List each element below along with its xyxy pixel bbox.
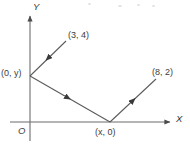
origin-label: O — [18, 126, 25, 136]
coordinate-diagram: Y X O (3, 4) (0, y) (x, 0) (8, 2) — [0, 0, 190, 146]
point-label-8-2: (8, 2) — [152, 68, 173, 77]
point-label-0-y: (0, y) — [1, 69, 22, 78]
x-axis-label: X — [176, 114, 182, 124]
segment-incoming — [30, 41, 66, 76]
segment-outgoing — [110, 79, 156, 122]
segment-middle — [30, 76, 110, 122]
point-label-x-0: (x, 0) — [95, 128, 116, 137]
point-label-3-4: (3, 4) — [68, 31, 89, 40]
y-axis-label: Y — [33, 2, 39, 12]
